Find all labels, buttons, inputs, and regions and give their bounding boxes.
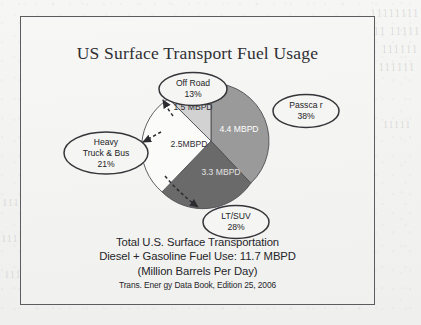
- caption-line-2: Diesel + Gasoline Fuel Use: 11.7 MBPD: [21, 249, 374, 263]
- callout-label-passcar: Passca r: [289, 100, 323, 110]
- callout-percent-passcar: 38%: [297, 111, 315, 121]
- callout-heavy-truck-bus[interactable]: Heavy Truck & Bus 21%: [64, 132, 148, 174]
- callout-percent-off-road: 13%: [184, 89, 202, 99]
- slice-value-lt-suv: 3.3 MBPD: [201, 167, 240, 177]
- callout-off-road[interactable]: Off Road 13%: [159, 73, 227, 106]
- callout-lt-suv[interactable]: LT/SUV 28%: [203, 206, 269, 239]
- slice-value-heavy-truck-bus: 2.5MBPD: [171, 139, 208, 149]
- callout-label-heavy-truck-bus-line2: Truck & Bus: [83, 148, 129, 158]
- page-title: US Surface Transport Fuel Usage: [21, 43, 374, 64]
- callout-label-off-road: Off Road: [176, 78, 210, 88]
- pie-chart: 4.4 MBPD 3.3 MBPD 2.5MBPD 1.5 MBPD Off R…: [21, 69, 374, 244]
- slide-frame: US Surface Transport Fuel Usage 4.4 MBPD…: [20, 16, 375, 305]
- slice-value-passcar: 4.4 MBPD: [219, 124, 258, 134]
- caption-line-1: Total U.S. Surface Transportation: [21, 235, 374, 249]
- callout-percent-lt-suv: 28%: [227, 222, 245, 232]
- callout-percent-heavy-truck-bus: 21%: [97, 159, 115, 169]
- pie-chart-svg: 4.4 MBPD 3.3 MBPD 2.5MBPD 1.5 MBPD Off R…: [21, 69, 374, 244]
- callout-label-lt-suv: LT/SUV: [221, 211, 251, 221]
- callout-label-heavy-truck-bus-line1: Heavy: [94, 137, 119, 147]
- caption-source: Trans. Ener gy Data Book, Edition 25, 20…: [21, 279, 374, 292]
- callout-passcar[interactable]: Passca r 38%: [273, 95, 339, 128]
- caption-line-3: (Million Barrels Per Day): [21, 264, 374, 278]
- caption-block: Total U.S. Surface Transportation Diesel…: [21, 235, 374, 292]
